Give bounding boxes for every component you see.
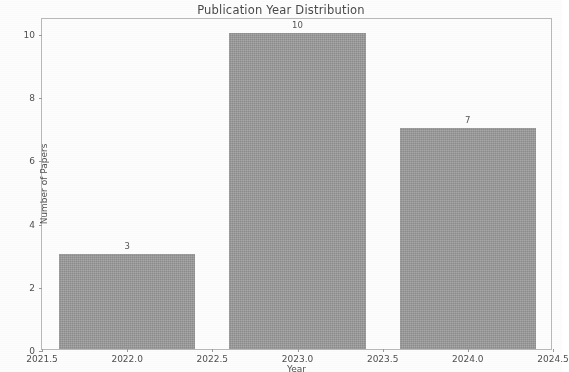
bar-value-label: 10 bbox=[292, 20, 303, 30]
x-tick-mark bbox=[127, 349, 128, 352]
x-tick-mark bbox=[212, 349, 213, 352]
bar bbox=[59, 254, 195, 349]
y-axis-label: Number of Papers bbox=[39, 144, 49, 225]
y-tick-mark bbox=[39, 35, 42, 36]
x-tick-label: 2024.0 bbox=[452, 354, 484, 364]
x-tick-mark bbox=[298, 349, 299, 352]
x-tick-label: 2022.0 bbox=[111, 354, 143, 364]
bar-value-label: 3 bbox=[124, 241, 129, 251]
chart-title: Publication Year Distribution bbox=[0, 3, 562, 17]
y-tick-label: 6 bbox=[29, 156, 35, 166]
y-tick-label: 2 bbox=[29, 283, 35, 293]
x-tick-label: 2024.5 bbox=[537, 354, 569, 364]
bar-value-label: 7 bbox=[465, 115, 470, 125]
y-tick-mark bbox=[39, 288, 42, 289]
x-tick-mark bbox=[553, 349, 554, 352]
x-tick-label: 2022.5 bbox=[197, 354, 229, 364]
x-tick-mark bbox=[42, 349, 43, 352]
y-tick-label: 8 bbox=[29, 93, 35, 103]
plot-area: 3107 2021.52022.02022.52023.02023.52024.… bbox=[41, 18, 552, 350]
y-tick-label: 4 bbox=[29, 220, 35, 230]
y-tick-mark bbox=[39, 225, 42, 226]
y-tick-label: 0 bbox=[29, 346, 35, 356]
bar bbox=[229, 33, 365, 349]
x-tick-label: 2023.5 bbox=[367, 354, 399, 364]
bar bbox=[400, 128, 536, 349]
y-tick-label: 10 bbox=[24, 30, 35, 40]
x-tick-mark bbox=[383, 349, 384, 352]
x-tick-label: 2023.0 bbox=[282, 354, 314, 364]
y-tick-mark bbox=[39, 98, 42, 99]
x-tick-mark bbox=[468, 349, 469, 352]
x-axis-label: Year bbox=[41, 364, 552, 372]
y-tick-mark bbox=[39, 351, 42, 352]
